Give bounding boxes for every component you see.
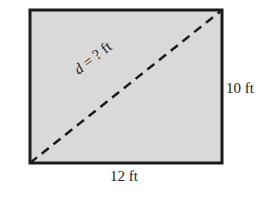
height-label: 10 ft bbox=[226, 80, 254, 97]
width-label: 12 ft bbox=[110, 168, 138, 185]
